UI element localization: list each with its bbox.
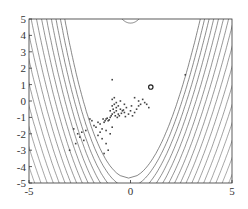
scatter-point	[105, 143, 107, 145]
scatter-point	[99, 131, 101, 133]
scatter-point	[111, 113, 113, 115]
contour-line	[63, 11, 202, 178]
scatter-point	[119, 115, 121, 117]
minimum-marker	[149, 85, 153, 89]
scatter-point	[146, 104, 148, 106]
y-tick-label: -5	[17, 177, 27, 189]
scatter-point	[124, 104, 126, 106]
contour-lines	[0, 11, 248, 193]
y-tick-label: 2	[21, 62, 27, 74]
x-tick-label: 5	[229, 185, 235, 197]
scatter-point	[120, 100, 122, 102]
y-tick-label: 3	[21, 46, 27, 58]
scatter-point	[134, 112, 136, 114]
scatter-point	[111, 79, 113, 81]
scatter-point	[118, 105, 120, 107]
scatter-point	[136, 108, 138, 110]
scatter-point	[89, 118, 91, 120]
scatter-point	[144, 102, 146, 104]
scatter-point	[104, 120, 106, 122]
contour-line	[12, 11, 248, 193]
contour-line	[40, 11, 226, 193]
scatter-point	[134, 97, 136, 99]
contour-plot: -505 543210-1-2-3-4-5	[0, 0, 248, 209]
scatter-point	[111, 99, 113, 101]
scatter-point	[91, 120, 93, 122]
contour-line	[54, 11, 211, 193]
top-contour-line	[120, 17, 140, 23]
scatter-point	[124, 112, 126, 114]
scatter-point	[123, 109, 125, 111]
scatter-point	[111, 126, 113, 128]
scatter-point	[115, 115, 117, 117]
scatter-point	[77, 133, 79, 135]
scatter-point	[73, 128, 75, 130]
y-tick-label: 0	[21, 95, 27, 107]
scatter-point	[109, 110, 111, 112]
scatter-point	[185, 74, 187, 76]
scatter-point	[121, 113, 123, 115]
y-tick-label: 1	[21, 79, 27, 91]
scatter-point	[112, 108, 114, 110]
scatter-points	[69, 74, 186, 154]
scatter-point	[118, 113, 120, 115]
scatter-point	[107, 149, 109, 151]
scatter-point	[99, 123, 101, 125]
y-tick-label: -3	[17, 144, 27, 156]
scatter-point	[108, 119, 110, 121]
scatter-point	[114, 104, 116, 106]
axes-frame	[29, 19, 232, 183]
scatter-point	[109, 133, 111, 135]
scatter-point	[81, 131, 83, 133]
scatter-point	[69, 149, 71, 151]
scatter-point	[102, 118, 104, 120]
scatter-point	[85, 130, 87, 132]
scatter-point	[116, 110, 118, 112]
scatter-point	[132, 115, 134, 117]
scatter-point	[105, 130, 107, 132]
contour-line	[59, 11, 207, 186]
scatter-point	[138, 105, 140, 107]
scatter-point	[128, 113, 130, 115]
contour-line	[6, 11, 248, 193]
scatter-point	[142, 99, 144, 101]
scatter-point	[138, 100, 140, 102]
scatter-point	[120, 108, 122, 110]
scatter-point	[131, 105, 133, 107]
scatter-point	[101, 138, 103, 140]
scatter-point	[114, 97, 116, 99]
y-tick-label: -4	[17, 161, 27, 173]
scatter-point	[93, 125, 95, 127]
scatter-point	[109, 117, 111, 119]
scatter-point	[126, 107, 128, 109]
scatter-point	[75, 143, 77, 145]
scatter-point	[97, 135, 99, 137]
y-tick-label: -1	[17, 111, 26, 123]
scatter-point	[114, 112, 116, 114]
scatter-point	[103, 122, 105, 124]
scatter-point	[79, 136, 81, 138]
scatter-point	[95, 126, 97, 128]
scatter-point	[140, 104, 142, 106]
scatter-point	[116, 102, 118, 104]
scatter-point	[110, 115, 112, 117]
scatter-point	[106, 117, 108, 119]
scatter-point	[101, 128, 103, 130]
scatter-point	[83, 140, 85, 142]
scatter-point	[97, 122, 99, 124]
y-tick-label: 4	[21, 29, 27, 41]
y-tick-label: -2	[17, 128, 26, 140]
scatter-point	[116, 107, 118, 109]
scatter-point	[103, 153, 105, 155]
plot-area	[0, 11, 248, 193]
scatter-point	[130, 110, 132, 112]
x-tick-label: 0	[128, 185, 134, 197]
scatter-point	[148, 107, 150, 109]
scatter-point	[111, 105, 113, 107]
y-tick-label: 5	[21, 13, 27, 25]
contour-line	[45, 11, 221, 193]
scatter-point	[125, 116, 127, 118]
scatter-point	[117, 117, 119, 119]
